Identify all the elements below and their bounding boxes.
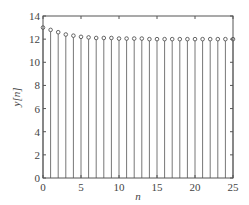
stem-marker [117,37,121,41]
y-tick-label: 14 [29,10,41,22]
y-tick-label: 4 [35,126,41,138]
stem-marker [72,34,76,38]
stem-marker [193,37,197,41]
stem-marker [102,36,106,40]
stem-marker [87,36,91,40]
y-tick-label: 12 [29,33,40,45]
stem-marker [163,37,167,41]
stem-marker [216,37,220,41]
y-tick-label: 8 [35,79,41,91]
stem-marker [148,37,152,41]
stem-marker [64,33,68,37]
stem-marker [140,37,144,41]
stem-marker [56,30,60,34]
x-tick-label: 10 [114,181,126,193]
stem-marker [110,36,114,40]
stem-marker [201,37,205,41]
stem-series [41,26,235,178]
y-tick-label: 6 [35,103,41,115]
stem-marker [155,37,159,41]
x-tick-label: 0 [40,181,46,193]
stem-marker [170,37,174,41]
stem-marker [79,35,83,39]
stem-marker [178,37,182,41]
x-tick-label: 25 [228,181,240,193]
y-axis-label: y[n] [10,88,22,108]
stem-marker [224,37,228,41]
x-tick-label: 15 [152,181,164,193]
y-tick-label: 2 [35,149,41,161]
stem-marker [186,37,190,41]
stem-marker [49,28,53,32]
x-tick-label: 20 [190,181,202,193]
x-axis-label: n [135,190,141,202]
x-axis: 0510152025 [40,16,239,193]
stem-marker [208,37,212,41]
stem-marker [94,36,98,40]
stem-marker [132,37,136,41]
y-tick-label: 10 [29,56,41,68]
stem-marker [125,37,129,41]
stem-plot: 02468101214 0510152025 n y[n] [0,0,249,205]
x-tick-label: 5 [78,181,84,193]
